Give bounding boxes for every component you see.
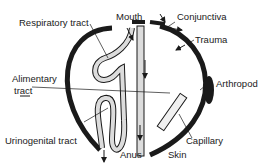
label-respiratory-tract: Respiratory tract bbox=[19, 18, 89, 28]
label-alimentary-line2: tract bbox=[14, 86, 32, 96]
label-alimentary-line1: Alimentary bbox=[12, 74, 57, 84]
label-anus: Anus bbox=[120, 150, 142, 160]
label-trauma: Trauma bbox=[195, 35, 227, 45]
label-arthropod: Arthropod bbox=[216, 79, 258, 89]
label-mouth: Mouth bbox=[116, 12, 142, 22]
label-skin: Skin bbox=[168, 150, 186, 160]
label-urinogenital-tract: Urinogenital tract bbox=[5, 136, 77, 146]
body-surfaces-infection-diagram: Respiratory tract Mouth Conjunctiva Trau… bbox=[0, 0, 272, 165]
label-capillary: Capillary bbox=[186, 136, 223, 146]
label-conjunctiva: Conjunctiva bbox=[177, 12, 227, 22]
arthropod bbox=[204, 76, 214, 104]
capillary bbox=[157, 93, 186, 130]
